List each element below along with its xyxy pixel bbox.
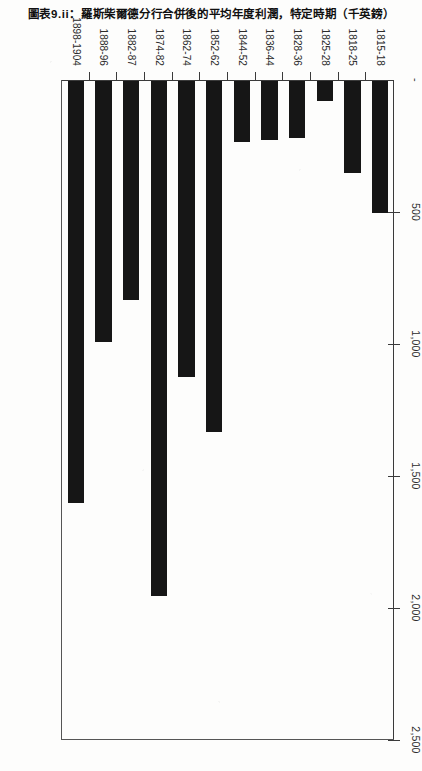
value-tick [388, 740, 400, 741]
bar [261, 81, 278, 140]
value-tick-label: 1,000 [410, 330, 422, 357]
bar [289, 81, 306, 138]
category-label: 1828-36 [292, 0, 303, 70]
category-label: 1815-18 [375, 0, 386, 70]
category-tick [199, 72, 200, 81]
value-tick [388, 212, 400, 213]
category-label: 1844-52 [236, 0, 247, 70]
category-tick [172, 72, 173, 81]
category-tick [282, 72, 283, 81]
category-tick [116, 72, 117, 81]
category-label: 1888-96 [98, 0, 109, 70]
bar [372, 81, 389, 213]
value-tick-label: 2,000 [410, 594, 422, 621]
bar [317, 81, 334, 101]
bar [234, 81, 251, 142]
category-label: 1836-44 [264, 0, 275, 70]
category-label: 1825-28 [319, 0, 330, 70]
category-label: 1882-87 [126, 0, 137, 70]
category-label: 1818-25 [347, 0, 358, 70]
bar [68, 81, 85, 503]
category-tick [310, 72, 311, 81]
bar-chart: 圖表9.ii：羅斯柴爾德分行合併後的平均年度利潤，特定時期（千英鎊） -5001… [0, 0, 422, 771]
value-tick [388, 344, 400, 345]
scanned-page: 圖表9.ii：羅斯柴爾德分行合併後的平均年度利潤，特定時期（千英鎊） -5001… [0, 0, 422, 771]
bar [344, 81, 361, 173]
bar [95, 81, 112, 342]
category-tick [365, 72, 366, 81]
plot-bottom-border [61, 80, 62, 740]
value-tick [388, 608, 400, 609]
value-tick-label: 2,500 [410, 726, 422, 753]
bar [123, 81, 140, 300]
bar [151, 81, 168, 596]
value-tick-label: - [410, 78, 422, 82]
category-label: 1874-82 [153, 0, 164, 70]
value-tick-label: 1,500 [410, 462, 422, 489]
category-tick [144, 72, 145, 81]
category-tick [338, 72, 339, 81]
category-label: 1862-74 [181, 0, 192, 70]
category-tick [227, 72, 228, 81]
rotated-figure-wrapper: 圖表9.ii：羅斯柴爾德分行合併後的平均年度利潤，特定時期（千英鎊） -5001… [0, 0, 422, 771]
value-tick-label: 500 [410, 203, 422, 221]
category-label: 1898-1904 [70, 0, 81, 70]
value-tick [388, 476, 400, 477]
bar [206, 81, 223, 432]
bar [178, 81, 195, 377]
category-tick [89, 72, 90, 81]
category-label: 1852-62 [209, 0, 220, 70]
category-tick [255, 72, 256, 81]
